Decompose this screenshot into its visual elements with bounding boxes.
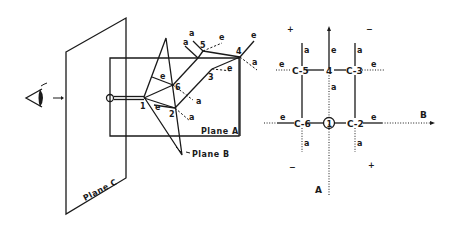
projection-view: A B 1 C-5 4 C-3 C-6 C-2 a e	[264, 25, 435, 195]
perspective-view: Plane C Plane A Plane B	[26, 18, 257, 214]
plane-b	[144, 38, 182, 155]
plane-c-label: Plane C	[82, 177, 119, 202]
svg-text:a: a	[357, 46, 362, 55]
atom-6-label: 6	[175, 83, 181, 92]
atom-2-label: 2	[169, 110, 175, 119]
svg-text:e: e	[155, 103, 161, 112]
svg-text:e: e	[227, 64, 233, 73]
ring-bonds	[144, 51, 240, 136]
atom-3-label: 3	[208, 73, 214, 82]
sign-top-left: +	[287, 25, 294, 34]
c5-label: C-5	[292, 66, 309, 76]
atom-1-label: 1	[140, 102, 146, 111]
sign-bottom-left: −	[289, 163, 296, 172]
diagram-canvas: Plane C Plane A Plane B	[0, 0, 456, 230]
svg-text:a: a	[331, 83, 336, 92]
atom-5-label: 5	[200, 41, 206, 50]
svg-text:a: a	[252, 58, 257, 67]
plane-a-label: Plane A	[201, 127, 239, 136]
svg-text:e: e	[251, 31, 257, 40]
projection-bond-labels: a e a e e a e e a a	[279, 46, 377, 148]
svg-text:a: a	[357, 139, 362, 148]
svg-text:e: e	[279, 60, 285, 69]
svg-text:a: a	[189, 29, 194, 38]
atom-4-label: 4	[236, 47, 242, 56]
svg-text:e: e	[371, 113, 377, 122]
svg-text:a: a	[304, 139, 309, 148]
svg-text:e: e	[331, 46, 337, 55]
c3-label: C-3	[346, 66, 363, 76]
eye-icon	[26, 83, 47, 107]
svg-text:a: a	[183, 38, 188, 47]
c6-label: C-6	[294, 119, 311, 129]
axis-b-label: B	[420, 110, 427, 120]
svg-text:e: e	[371, 60, 377, 69]
c4-label: 4	[326, 66, 332, 76]
svg-text:e: e	[160, 72, 166, 81]
center-atom-label: 1	[327, 120, 333, 129]
svg-text:e: e	[219, 33, 225, 42]
svg-text:e: e	[280, 113, 286, 122]
svg-text:a: a	[189, 113, 194, 122]
c2-label: C-2	[347, 119, 364, 129]
view-arrow	[53, 96, 64, 100]
sign-top-right: −	[366, 25, 373, 34]
svg-text:a: a	[304, 46, 309, 55]
sign-bottom-right: +	[368, 161, 375, 170]
svg-text:a: a	[196, 97, 201, 106]
axis-a-label: A	[315, 185, 322, 195]
plane-b-label: Plane B	[192, 150, 230, 159]
